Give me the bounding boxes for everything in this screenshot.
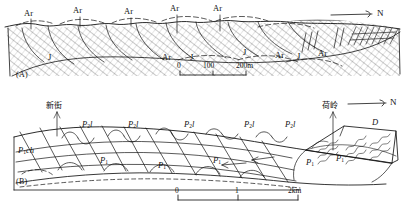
panel-a-scale-tick-200m: 200m	[236, 62, 253, 70]
unit-label-p1: P1	[100, 156, 108, 166]
panel-b-group	[14, 100, 398, 200]
panel-a-north-label: N	[377, 9, 384, 18]
panel-b-north-label: N	[390, 98, 397, 107]
panel-a-scale-tick-100: 100	[203, 62, 214, 70]
unit-label-ar: Ar	[170, 4, 179, 13]
unit-label-j: J	[190, 53, 193, 62]
unit-label-p2l: P2l	[244, 120, 254, 130]
place-label-heling: 荷岭	[322, 102, 338, 110]
unit-label-j: J	[243, 48, 246, 57]
panel-b-fold-hinges	[58, 128, 287, 177]
panel-b-north-arrow	[348, 100, 386, 106]
panel-b-vergence-arrows	[222, 157, 274, 168]
panel-b-id: (B)	[16, 178, 28, 186]
unit-label-p1: P1	[158, 161, 166, 171]
unit-label-p2l: P2l	[285, 120, 295, 130]
unit-label-p1: P1	[336, 154, 344, 164]
unit-label-ar: Ar	[318, 49, 327, 58]
unit-label-ar: Ar	[24, 9, 33, 18]
unit-label-j: J	[48, 53, 51, 62]
geological-cross-section-figure: Ar Ar Ar Ar Ar Ar Ar Ar J J J J N (A) 0 …	[0, 0, 404, 218]
unit-label-ar: Ar	[124, 7, 133, 16]
panel-b-scale-tick-0: 0	[175, 187, 179, 195]
unit-label-d: D	[372, 118, 378, 127]
unit-label-ar: Ar	[162, 53, 171, 62]
panel-a-north-arrow	[331, 11, 372, 17]
unit-label-p1: P1	[306, 158, 314, 168]
unit-label-p1: P1	[213, 156, 221, 166]
unit-label-p2l: P2l	[82, 120, 92, 130]
panel-a-scale-tick-0: 0	[177, 62, 181, 70]
unit-label-p2l: P2l	[128, 120, 138, 130]
unit-label-p2l: P2l	[184, 120, 194, 130]
panel-b-basal-detachment	[16, 173, 386, 185]
panel-b-scale-tick-1: 1	[235, 187, 239, 195]
panel-b-block-diagram	[294, 126, 399, 182]
unit-label-ar: Ar	[275, 51, 284, 60]
unit-label-j: J	[297, 52, 300, 61]
panel-b-scale-bar	[178, 195, 298, 200]
unit-label-ar: Ar	[73, 6, 82, 15]
panel-b-scale-tick-2km: 2km	[288, 187, 301, 195]
unit-label-ar: Ar	[213, 4, 222, 13]
place-label-xinjie: 新街	[46, 102, 62, 110]
unit-label-p1ch: P1ch	[18, 146, 34, 156]
panel-a-id: (A)	[16, 71, 28, 79]
